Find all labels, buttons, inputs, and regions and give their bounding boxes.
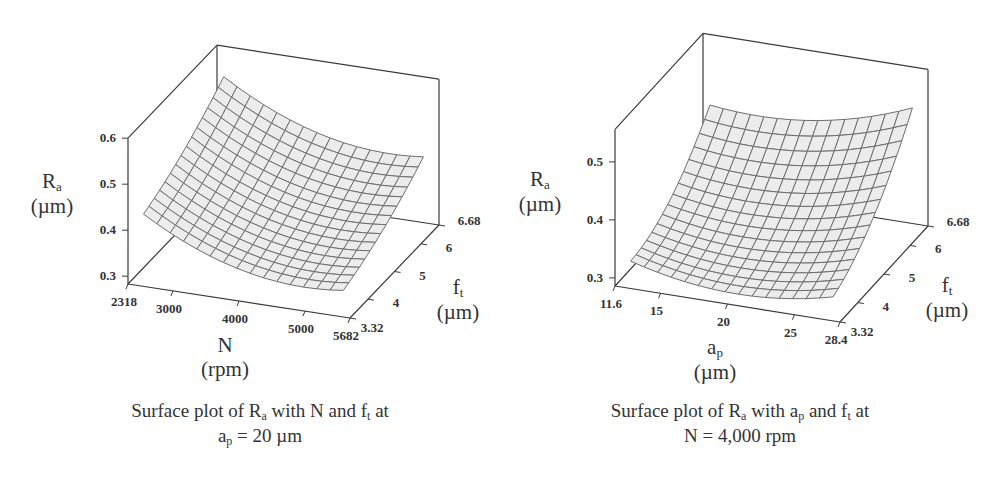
x-tick-label: 15 bbox=[650, 303, 664, 318]
z-tick-label: 0.4 bbox=[587, 212, 604, 227]
y-tick-label: 3.32 bbox=[851, 324, 874, 339]
y-tick-label: 6.68 bbox=[947, 214, 970, 229]
y-tick-label: 4 bbox=[883, 299, 890, 314]
x-axis-title: ap (µm) bbox=[680, 336, 750, 384]
surface-mesh bbox=[631, 105, 913, 299]
x-tick-label: 20 bbox=[717, 314, 730, 329]
z-axis-title: Ra (µm) bbox=[512, 168, 568, 216]
x-tick-label: 11.6 bbox=[600, 296, 623, 311]
y-axis-title: ft (µm) bbox=[917, 274, 977, 322]
y-tick-label: 5 bbox=[909, 270, 916, 285]
y-tick-label: 6 bbox=[935, 241, 942, 256]
z-tick-label: 0.3 bbox=[587, 270, 604, 285]
x-tick-label: 28.4 bbox=[825, 332, 848, 347]
x-tick-label: 25 bbox=[784, 325, 798, 340]
plot-caption: Surface plot of Ra with ap and ft at N =… bbox=[540, 399, 940, 448]
surface-plot-ap-ft: 0.30.40.511.615202528.43.324566.68 Ra (µ… bbox=[0, 0, 498, 479]
z-tick-label: 0.5 bbox=[587, 154, 604, 169]
